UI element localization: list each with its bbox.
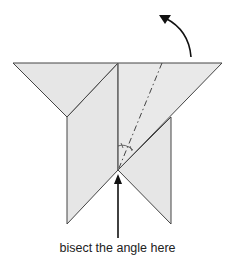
pointer-arrowhead-icon <box>114 174 122 184</box>
origami-diagram: bisect the angle here <box>0 0 235 267</box>
caption: bisect the angle here <box>0 241 235 255</box>
fold-arrow-icon <box>165 18 191 57</box>
diagram-canvas <box>0 0 235 267</box>
